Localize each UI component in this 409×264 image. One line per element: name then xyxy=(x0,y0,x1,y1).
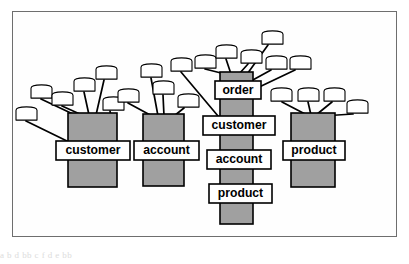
diagram-canvas: customeraccountordercustomeraccountprodu… xyxy=(12,11,397,237)
edge-line xyxy=(163,95,164,116)
leaf-node[interactable] xyxy=(324,88,345,101)
caption-artifact-text: a b d bb c f d e bb xyxy=(0,250,409,264)
edge-line xyxy=(251,70,271,81)
entity-label-text: customer xyxy=(66,143,121,157)
leaf-node[interactable] xyxy=(266,56,287,69)
edge-line xyxy=(84,92,89,115)
leaf-node[interactable] xyxy=(141,64,162,77)
leaf-node[interactable] xyxy=(241,50,262,63)
leaf-node[interactable] xyxy=(171,58,192,71)
entity-label-text: customer xyxy=(212,118,267,132)
entity-label-text: account xyxy=(216,152,263,166)
entity-label-text: account xyxy=(143,143,190,157)
leaf-node[interactable] xyxy=(216,45,237,58)
leaf-node[interactable] xyxy=(153,81,174,94)
leaf-node[interactable] xyxy=(298,88,319,101)
entity-label-text: product xyxy=(218,186,263,200)
leaf-node[interactable] xyxy=(16,107,37,120)
leaves-group xyxy=(16,31,368,120)
entity-label-text: order xyxy=(222,83,253,97)
leaf-node[interactable] xyxy=(195,55,216,68)
leaf-node[interactable] xyxy=(271,88,292,101)
leaf-node[interactable] xyxy=(262,31,283,44)
entity-label-text: product xyxy=(291,143,336,157)
edge-line xyxy=(26,121,69,142)
leaf-node[interactable] xyxy=(74,78,95,91)
leaf-node[interactable] xyxy=(178,94,199,107)
leaf-node[interactable] xyxy=(31,85,52,98)
leaf-node[interactable] xyxy=(96,66,117,79)
leaf-node[interactable] xyxy=(118,89,139,102)
diagram-figure: customeraccountordercustomeraccountprodu… xyxy=(0,0,409,264)
leaf-node[interactable] xyxy=(52,92,73,105)
leaf-node[interactable] xyxy=(290,56,311,69)
leaf-node[interactable] xyxy=(347,100,368,113)
